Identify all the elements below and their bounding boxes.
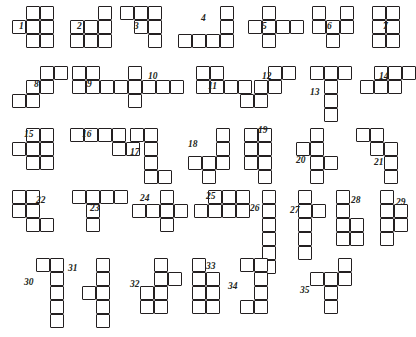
hexomino-cell: [120, 6, 134, 20]
hexomino-cell: [276, 20, 290, 34]
hexomino-label-7: 7: [383, 22, 388, 32]
hexomino-cell: [128, 94, 142, 108]
hexomino-cell: [298, 190, 312, 204]
hexomino-cell: [72, 66, 86, 80]
hexomino-cell: [338, 258, 352, 272]
hexomino-cell: [220, 34, 234, 48]
hexomino-cell: [384, 156, 398, 170]
hexomino-cell: [324, 80, 338, 94]
hexomino-cell: [262, 204, 276, 218]
hexomino-cell: [290, 20, 304, 34]
hexomino-cell: [220, 20, 234, 34]
hexomino-label-13: 13: [310, 88, 320, 98]
hexomino-cell: [206, 286, 220, 300]
hexomino-cell: [282, 66, 296, 80]
hexomino-cell: [84, 20, 98, 34]
hexomino-cell: [326, 34, 340, 48]
hexomino-cell: [194, 204, 208, 218]
hexomino-cell: [134, 6, 148, 20]
hexomino-cell: [98, 34, 112, 48]
hexomino-cell: [26, 6, 40, 20]
hexomino-label-30: 30: [24, 278, 34, 288]
hexomino-label-11: 11: [208, 82, 217, 92]
hexomino-cell: [324, 156, 338, 170]
hexomino-cell: [12, 204, 26, 218]
hexomino-cell: [324, 300, 338, 314]
hexomino-cell: [206, 272, 220, 286]
hexomino-cell: [310, 272, 324, 286]
hexomino-cell: [262, 190, 276, 204]
hexomino-cell: [192, 300, 206, 314]
hexomino-cell: [254, 94, 268, 108]
hexomino-cell: [216, 156, 230, 170]
hexomino-cell: [202, 170, 216, 184]
hexomino-cell: [148, 6, 162, 20]
hexomino-label-8: 8: [34, 80, 39, 90]
hexomino-cell: [96, 258, 110, 272]
hexomino-cell: [310, 66, 324, 80]
hexomino-cell: [26, 156, 40, 170]
hexomino-cell: [40, 34, 54, 48]
hexomino-cell: [340, 6, 354, 20]
hexomino-cell: [112, 142, 126, 156]
hexomino-cell: [324, 108, 338, 122]
hexomino-cell: [132, 204, 146, 218]
hexomino-cell: [262, 232, 276, 246]
hexomino-cell: [338, 272, 352, 286]
hexomino-cell: [98, 6, 112, 20]
hexomino-cell: [244, 142, 258, 156]
hexomino-cell: [128, 66, 142, 80]
hexomino-cell: [154, 286, 168, 300]
hexomino-cell: [168, 272, 182, 286]
hexomino-cell: [254, 300, 268, 314]
hexomino-cell: [72, 190, 86, 204]
hexomino-cell: [160, 190, 174, 204]
hexomino-cell: [236, 190, 250, 204]
hexomino-cell: [360, 80, 374, 94]
hexomino-cell: [384, 170, 398, 184]
hexomino-cell: [296, 142, 310, 156]
hexomino-label-6: 6: [327, 22, 332, 32]
hexomino-cell: [370, 142, 384, 156]
hexomino-cell: [26, 94, 40, 108]
hexomino-cell: [12, 142, 26, 156]
hexomino-cell: [26, 218, 40, 232]
hexomino-cell: [216, 142, 230, 156]
hexomino-cell: [50, 314, 64, 328]
hexomino-cell: [40, 66, 54, 80]
hexomino-cell: [248, 20, 262, 34]
hexomino-cell: [350, 218, 364, 232]
hexomino-cell: [144, 170, 158, 184]
hexomino-label-17: 17: [130, 148, 140, 158]
hexomino-label-15: 15: [24, 130, 34, 140]
hexomino-cell: [12, 94, 26, 108]
hexomino-cell: [100, 80, 114, 94]
hexomino-cell: [192, 272, 206, 286]
hexomino-cell: [96, 272, 110, 286]
hexomino-cell: [50, 272, 64, 286]
hexomino-label-5: 5: [262, 22, 267, 32]
hexomino-cell: [298, 218, 312, 232]
hexomino-cell: [336, 232, 350, 246]
hexomino-cell: [206, 34, 220, 48]
hexomino-cell: [148, 34, 162, 48]
hexomino-cell: [192, 34, 206, 48]
hexomino-cell: [26, 34, 40, 48]
hexomino-cell: [50, 286, 64, 300]
hexomino-cell: [86, 218, 100, 232]
hexomino-cell: [310, 170, 324, 184]
hexomino-cell: [86, 66, 100, 80]
hexomino-cell: [262, 34, 276, 48]
hexomino-cell: [114, 80, 128, 94]
hexomino-cell: [298, 232, 312, 246]
hexomino-cell: [262, 6, 276, 20]
hexomino-label-32: 32: [130, 280, 140, 290]
hexomino-cell: [380, 218, 394, 232]
hexomino-cell: [244, 156, 258, 170]
hexomino-cell: [160, 204, 174, 218]
hexomino-label-29: 29: [396, 198, 406, 208]
hexomino-label-26: 26: [250, 204, 260, 214]
hexomino-cell: [388, 66, 402, 80]
hexomino-cell: [394, 218, 408, 232]
